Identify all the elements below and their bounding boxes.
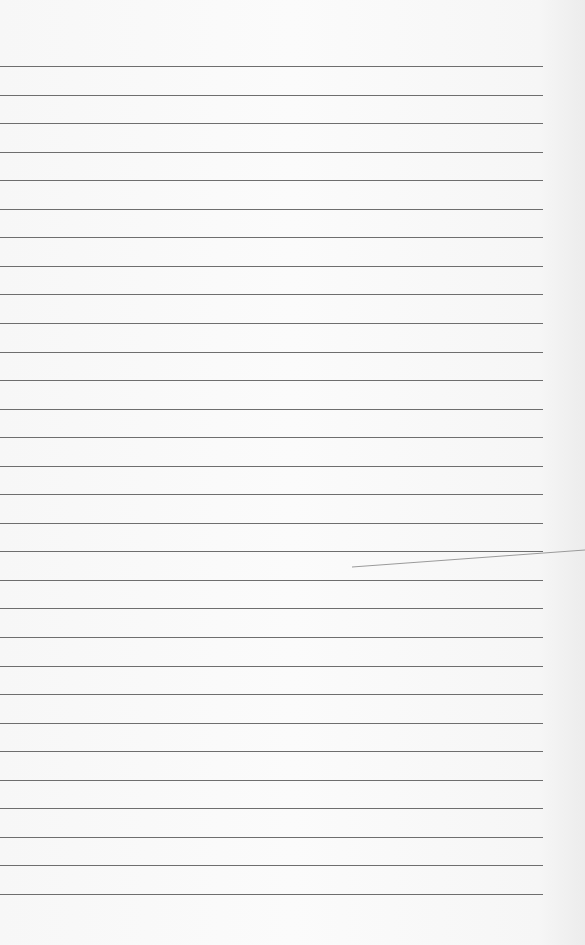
ruled-paper-sheet xyxy=(0,0,585,945)
stray-pencil-mark xyxy=(0,0,585,945)
diagonal-stroke xyxy=(352,550,585,567)
